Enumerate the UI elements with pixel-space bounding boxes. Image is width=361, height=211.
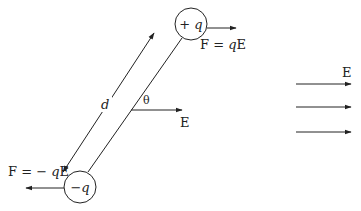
negative-force-label: F = − qE [8, 164, 69, 179]
angle-label: θ [143, 94, 150, 107]
negative-charge-label: −q [70, 180, 89, 195]
positive-charge-label: + q [179, 17, 202, 32]
positive-force-label: F = qE [200, 37, 246, 52]
dipole-diagram: d θ E + q F = qE −q F = − qE E [0, 0, 361, 211]
separation-label: d [101, 97, 109, 112]
center-field-label: E [180, 115, 190, 130]
field-label: E [342, 65, 352, 80]
